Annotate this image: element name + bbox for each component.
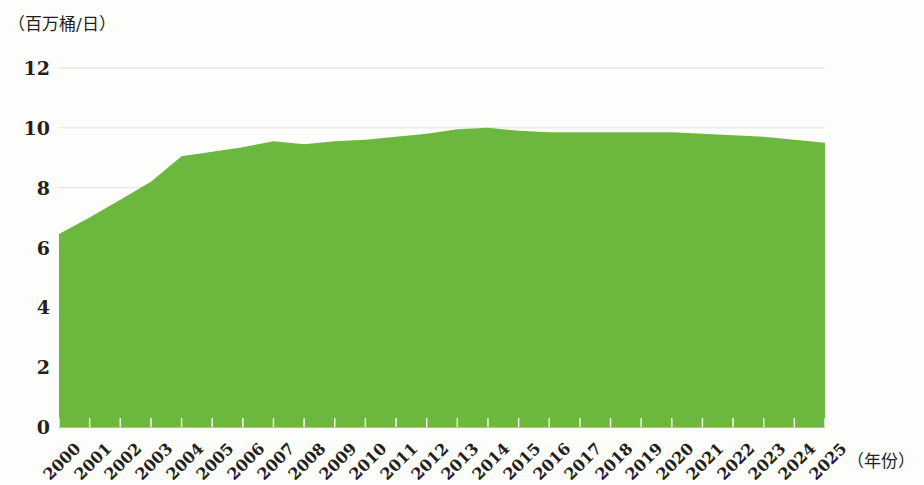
x-axis-unit-label: （年份） [847,447,915,472]
chart-container: （百万桶/日） 024681012 2000200120022003200420… [0,0,924,485]
x-axis-tick-labels: 2000200120022003200420052006200720082009… [0,0,924,485]
